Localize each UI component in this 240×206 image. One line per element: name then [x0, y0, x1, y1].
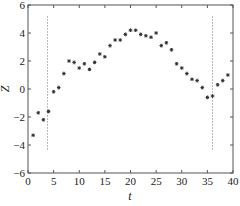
data-point — [36, 111, 40, 115]
data-point — [195, 79, 199, 83]
data-point — [170, 48, 174, 52]
data-point — [57, 86, 61, 90]
data-point — [62, 72, 66, 76]
y-tick-label: 2 — [20, 55, 26, 67]
y-tick-label: −2 — [13, 111, 25, 123]
data-point — [124, 33, 128, 37]
x-tick-label: 20 — [125, 175, 137, 187]
data-point — [134, 28, 138, 32]
x-tick-label: 40 — [228, 175, 240, 187]
data-point — [72, 61, 76, 65]
data-point — [31, 133, 35, 137]
data-point — [118, 38, 122, 42]
y-tick-label: −6 — [13, 167, 25, 179]
data-point — [200, 86, 204, 90]
data-point — [149, 35, 153, 39]
data-point — [139, 33, 143, 37]
data-point — [113, 38, 117, 42]
x-tick-label: 0 — [25, 175, 31, 187]
data-point — [42, 118, 46, 122]
data-point — [67, 59, 71, 63]
data-point — [185, 72, 189, 76]
data-point — [206, 96, 210, 100]
y-tick-label: 6 — [20, 0, 26, 11]
data-point — [129, 28, 133, 32]
dashed-reference-lines — [47, 16, 212, 150]
data-point — [165, 41, 169, 45]
data-point — [190, 77, 194, 81]
data-point — [211, 94, 215, 98]
data-point — [93, 61, 97, 65]
x-tick-label: 5 — [51, 175, 57, 187]
data-point — [226, 73, 230, 77]
y-tick-label: −4 — [13, 139, 25, 151]
data-point — [77, 66, 81, 70]
data-point — [144, 34, 148, 38]
scatter-chart: 0510152025303540 −6−4−20246 t Z — [0, 0, 240, 206]
data-point — [103, 55, 107, 59]
data-point — [221, 79, 225, 83]
data-point — [159, 44, 163, 48]
data-point — [154, 31, 158, 35]
data-point — [88, 68, 92, 72]
x-tick-label: 30 — [176, 175, 188, 187]
x-tick-label: 25 — [151, 175, 163, 187]
x-tick-label: 15 — [99, 175, 111, 187]
y-tick-label: 4 — [20, 27, 26, 39]
y-tick-label: 0 — [20, 83, 26, 95]
data-points — [31, 28, 229, 137]
data-point — [47, 110, 51, 114]
data-point — [83, 62, 87, 66]
x-axis-label: t — [128, 189, 132, 203]
data-point — [216, 83, 220, 87]
data-point — [98, 52, 102, 56]
x-tick-label: 10 — [74, 175, 86, 187]
data-point — [175, 62, 179, 66]
data-point — [52, 90, 56, 94]
x-tick-label: 35 — [202, 175, 214, 187]
y-axis-ticks: −6−4−20246 — [13, 0, 233, 179]
data-point — [180, 66, 184, 70]
data-point — [108, 44, 112, 48]
y-axis-label: Z — [0, 85, 12, 92]
